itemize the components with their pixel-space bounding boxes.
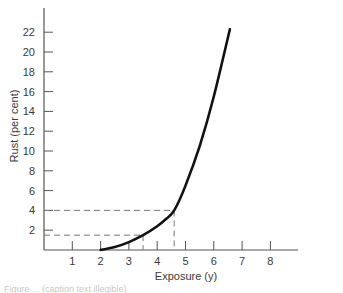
y-axis: 246810121416182022 [23, 8, 53, 250]
rust-exposure-chart: 246810121416182022 12345678 Rust (per ce… [0, 0, 343, 293]
x-tick-label: 6 [211, 255, 217, 267]
y-tick-label: 4 [29, 204, 35, 216]
x-tick-label: 4 [154, 255, 160, 267]
y-tick-label: 18 [23, 66, 35, 78]
y-tick-label: 16 [23, 86, 35, 98]
y-tick-label: 22 [23, 26, 35, 38]
y-tick-label: 8 [29, 165, 35, 177]
x-tick-label: 7 [239, 255, 245, 267]
x-tick-label: 5 [182, 255, 188, 267]
y-tick-label: 2 [29, 224, 35, 236]
x-tick-label: 1 [69, 255, 75, 267]
y-tick-label: 12 [23, 125, 35, 137]
y-tick-label: 6 [29, 185, 35, 197]
dashed-guides [44, 210, 174, 250]
y-tick-label: 14 [23, 105, 35, 117]
x-axis: 12345678 [44, 241, 298, 267]
x-tick-label: 2 [98, 255, 104, 267]
rust-curve [101, 29, 230, 250]
y-axis-title: Rust (per cent) [8, 90, 20, 163]
y-tick-label: 20 [23, 46, 35, 58]
x-tick-label: 3 [126, 255, 132, 267]
x-axis-title: Exposure (y) [155, 270, 217, 282]
y-tick-label: 10 [23, 145, 35, 157]
x-tick-label: 8 [267, 255, 273, 267]
figure-caption: Figure ... (caption text illegible) [4, 284, 127, 293]
